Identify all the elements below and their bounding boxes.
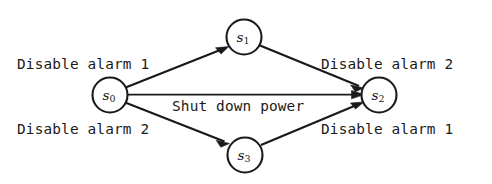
edge-label-disable-alarm-2-top: Disable alarm 2	[321, 57, 453, 71]
node-subscript-s3: 3	[244, 152, 250, 163]
node-group: s0 s1 s2 s3	[93, 20, 397, 173]
node-s0[interactable]: s0	[93, 78, 128, 113]
node-s3[interactable]: s3	[228, 138, 263, 173]
node-s1[interactable]: s1	[227, 20, 262, 55]
edge-label-disable-alarm-2-bottom: Disable alarm 2	[17, 122, 149, 136]
arrowhead-s0-s1	[216, 47, 229, 54]
edge-label-disable-alarm-1-top: Disable alarm 1	[17, 57, 149, 71]
node-s2[interactable]: s2	[362, 78, 397, 113]
node-subscript-s1: 1	[243, 34, 249, 45]
node-subscript-s0: 0	[109, 92, 115, 103]
node-subscript-s2: 2	[378, 92, 384, 103]
edge-label-disable-alarm-1-bottom: Disable alarm 1	[321, 122, 453, 136]
diagram-canvas: s0 s1 s2 s3	[0, 0, 492, 184]
edge-label-shut-down-power: Shut down power	[172, 99, 304, 113]
state-transition-diagram: s0 s1 s2 s3 D	[0, 0, 492, 184]
